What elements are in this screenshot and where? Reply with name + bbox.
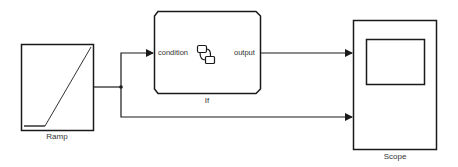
scope-screen-icon	[367, 40, 425, 85]
ramp-label: Ramp	[21, 132, 93, 141]
scope-block[interactable]	[354, 21, 437, 150]
if-label: If	[154, 96, 260, 105]
diagram-canvas	[0, 0, 458, 167]
ramp-block[interactable]	[22, 45, 94, 131]
scope-label: Scope	[353, 152, 437, 161]
if-input-port-label: condition	[158, 48, 188, 57]
if-output-port-label: output	[234, 48, 255, 57]
